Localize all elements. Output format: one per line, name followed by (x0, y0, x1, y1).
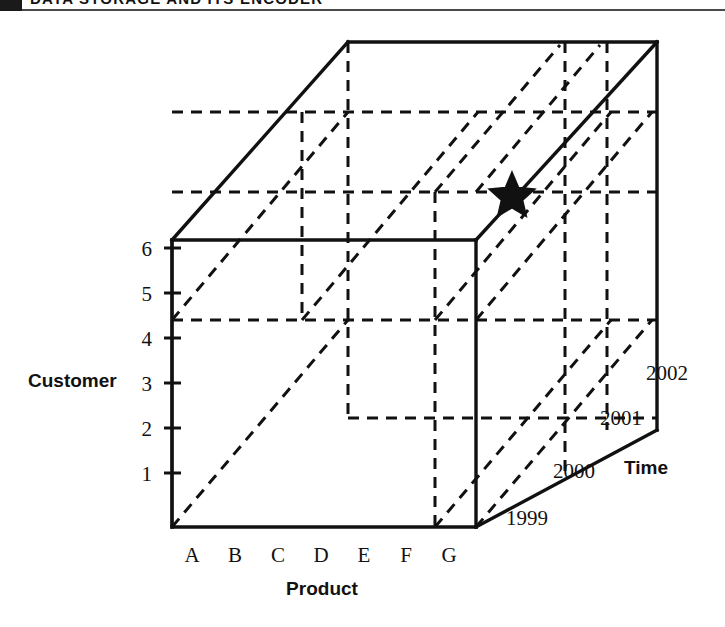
product-tick-label-c: C (271, 543, 285, 567)
product-tick-label-f: F (400, 543, 412, 567)
product-tick-label-d: D (313, 543, 328, 567)
product-tick-label-b: B (228, 543, 242, 567)
customer-axis (164, 240, 181, 527)
grid-depth-bottom-left (172, 320, 348, 527)
time-tick-label-2000: 2000 (553, 459, 595, 483)
product-axis-title: Product (286, 578, 358, 599)
time-axis-title: Time (624, 457, 668, 478)
time-tick-labels: 1999 2000 2001 2002 (506, 361, 688, 530)
grid-depth-line-mid (302, 112, 478, 320)
customer-tick-label-3: 3 (142, 372, 153, 396)
product-tick-label-g: G (441, 543, 456, 567)
customer-axis-title: Customer (28, 370, 117, 391)
customer-tick-labels: 6 5 4 3 2 1 (142, 237, 153, 486)
grid-depth-line-star (435, 112, 611, 320)
grid-depth-bottom-mid (435, 320, 611, 527)
product-tick-label-e: E (358, 543, 371, 567)
customer-tick-label-5: 5 (142, 282, 153, 306)
time-tick-label-1999: 1999 (506, 506, 548, 530)
product-tick-labels: A B C D E F G (184, 543, 456, 567)
customer-tick-label-6: 6 (142, 237, 153, 261)
time-tick-label-2001: 2001 (600, 406, 642, 430)
cube-internal-grid (172, 42, 657, 527)
product-tick-label-a: A (184, 543, 200, 567)
cube-outline (172, 42, 657, 527)
time-tick-label-2002: 2002 (646, 361, 688, 385)
data-cube-figure: 6 5 4 3 2 1 Customer A B C D E F G Produ… (0, 0, 725, 627)
cell-marker-star-icon (489, 172, 535, 216)
customer-tick-label-4: 4 (142, 327, 153, 351)
customer-tick-label-1: 1 (142, 462, 153, 486)
customer-tick-label-2: 2 (142, 417, 153, 441)
